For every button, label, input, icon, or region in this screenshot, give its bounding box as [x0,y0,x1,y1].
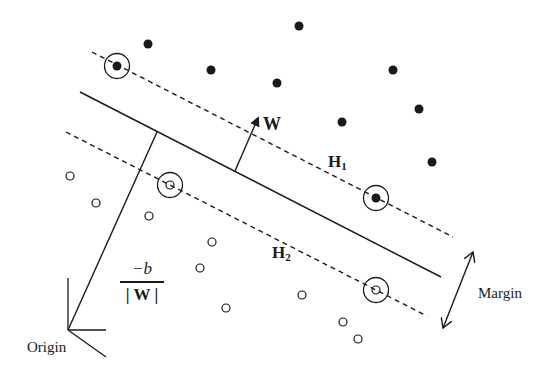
offset-numerator: −b [120,260,164,278]
negative-point [372,286,380,294]
h2-label-main: H [272,243,285,262]
svm-diagram [0,0,555,376]
w-vector-arrow [235,118,258,171]
h1-label-sub: 1 [341,160,347,172]
h1-margin-boundary [92,52,453,237]
fraction-bar [120,281,164,283]
h2-label: H2 [272,243,291,263]
negative-point [166,181,174,189]
negative-class-points [66,172,389,343]
origin-label: Origin [27,339,66,356]
positive-point [338,118,347,127]
negative-point [92,199,100,207]
positive-point [113,62,122,71]
positive-point [415,105,424,114]
positive-point [389,66,398,75]
support-vector-ring [364,278,389,303]
negative-point [196,264,204,272]
positive-point [295,22,304,31]
offset-fraction: −b | W | [120,260,164,304]
h1-label: H1 [328,152,347,172]
support-vector-ring [158,173,183,198]
positive-point [144,40,153,49]
margin-label: Margin [478,285,522,302]
h1-label-main: H [328,152,341,171]
negative-point [145,212,153,220]
negative-point [66,172,74,180]
positive-point [372,194,381,203]
margin-arrow [443,252,473,328]
negative-point [354,335,362,343]
negative-point [298,291,306,299]
negative-point [208,238,216,246]
negative-point [222,304,230,312]
positive-point [273,79,282,88]
offset-denominator: | W | [120,286,164,304]
h2-label-sub: 2 [285,251,291,263]
negative-point [339,318,347,326]
positive-point [207,66,216,75]
w-vector-label: W [263,114,281,135]
positive-point [428,158,437,167]
